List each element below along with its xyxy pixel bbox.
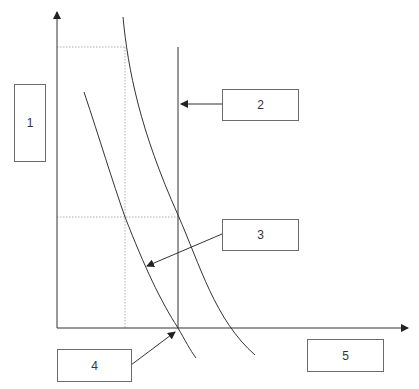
arrow-4 bbox=[131, 332, 175, 365]
label-box-2: 2 bbox=[222, 89, 299, 121]
guide-lines bbox=[57, 47, 178, 328]
inner-curve bbox=[84, 92, 196, 358]
label-1: 1 bbox=[27, 116, 34, 130]
outer-curve bbox=[123, 17, 255, 355]
label-2: 2 bbox=[257, 98, 264, 112]
label-box-1: 1 bbox=[14, 84, 46, 162]
diagram-canvas bbox=[0, 0, 419, 389]
label-box-3: 3 bbox=[222, 219, 299, 251]
arrow-3 bbox=[147, 234, 222, 266]
label-box-5: 5 bbox=[307, 339, 384, 372]
label-4: 4 bbox=[91, 359, 98, 373]
label-5: 5 bbox=[342, 349, 349, 363]
label-3: 3 bbox=[257, 228, 264, 242]
label-box-4: 4 bbox=[57, 349, 132, 382]
